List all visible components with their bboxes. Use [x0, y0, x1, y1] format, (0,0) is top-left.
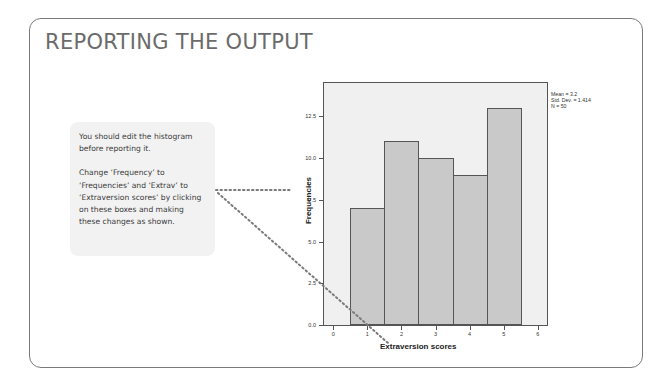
- pointer-line-to-x-label: [218, 193, 388, 343]
- dotted-pointer-lines: [0, 0, 672, 389]
